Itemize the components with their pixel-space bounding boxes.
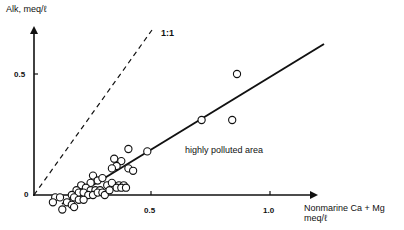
data-point bbox=[99, 175, 106, 182]
origin-label: 0 bbox=[24, 190, 28, 199]
data-point bbox=[229, 116, 236, 123]
data-point bbox=[198, 116, 205, 123]
y-tick-label: 0.5 bbox=[14, 70, 25, 79]
one-to-one-label: 1:1 bbox=[161, 28, 174, 38]
data-point bbox=[233, 70, 240, 77]
x-axis-label-line2: meq/ℓ bbox=[304, 213, 327, 223]
data-points bbox=[49, 70, 240, 213]
data-point bbox=[80, 196, 87, 203]
polluted-area-annotation: highly polluted area bbox=[185, 145, 263, 155]
x-tick-label-0.5: 0.5 bbox=[144, 206, 155, 215]
x-tick-label-1.0: 1.0 bbox=[263, 206, 274, 215]
data-point bbox=[71, 204, 78, 211]
data-point bbox=[108, 165, 115, 172]
data-point bbox=[144, 148, 151, 155]
data-point bbox=[49, 199, 56, 206]
data-point bbox=[125, 145, 132, 152]
data-point bbox=[111, 155, 118, 162]
scatter-plot bbox=[0, 0, 404, 230]
y-axis-label: Alk, meq/ℓ bbox=[6, 4, 46, 14]
data-point bbox=[130, 167, 137, 174]
data-point bbox=[59, 206, 66, 213]
x-axis-label-line1: Nonmarine Ca + Mg bbox=[304, 203, 385, 213]
data-point bbox=[56, 194, 63, 201]
data-point bbox=[122, 184, 129, 191]
data-point bbox=[106, 187, 113, 194]
